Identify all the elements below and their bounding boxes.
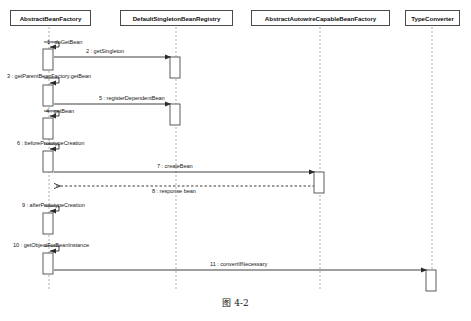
activation-bar-abf-7 bbox=[43, 213, 53, 234]
messages-layer bbox=[44, 42, 427, 270]
message-label-8: 8 : response bean bbox=[152, 188, 196, 195]
participant-box-tc: TypeConverter bbox=[405, 10, 460, 26]
message-label-11: 11 : convertIfNecessary bbox=[210, 261, 267, 268]
message-label-3: 3 : getParentBeanFactory.getBean bbox=[7, 73, 91, 80]
figure-caption: 图 4-2 bbox=[0, 296, 471, 309]
activation-bar-abf-2 bbox=[43, 85, 53, 106]
activation-bar-abf-4 bbox=[43, 118, 53, 139]
activation-bar-abf-5 bbox=[43, 151, 53, 172]
activation-bar-dsbr-3 bbox=[170, 104, 180, 125]
message-label-5: 5 : registerDependentBean bbox=[99, 95, 165, 102]
sequence-diagram-canvas bbox=[0, 0, 471, 321]
message-label-9: 9 : afterPrototypeCreation bbox=[22, 202, 85, 209]
lifelines-layer bbox=[49, 27, 432, 290]
participant-box-aacbf: AbstractAutowireCapableBeanFactory bbox=[251, 10, 390, 26]
activation-bar-dsbr-1 bbox=[170, 57, 180, 78]
message-label-2: 2 : getSingleton bbox=[86, 48, 124, 55]
activation-bar-abf-8 bbox=[43, 253, 53, 274]
participant-box-abf: AbstractBeanFactory bbox=[10, 10, 91, 26]
message-label-1: 1 : doGetBean bbox=[47, 39, 82, 46]
participant-box-dsbr: DefaultSingletonBeanRegistry bbox=[120, 10, 233, 26]
activation-bar-abf-0 bbox=[43, 49, 53, 70]
message-label-7: 7 : createBean bbox=[157, 163, 193, 170]
activations-layer bbox=[43, 49, 436, 291]
message-label-10: 10 : getObjectForBeanInstance bbox=[13, 242, 89, 249]
message-label-4: 4 : getBean bbox=[46, 108, 74, 115]
sequence-diagram-page: AbstractBeanFactoryDefaultSingletonBeanR… bbox=[0, 0, 471, 321]
activation-bar-aacbf-6 bbox=[314, 172, 324, 193]
message-label-6: 6 : beforePrototypeCreation bbox=[17, 140, 84, 147]
activation-bar-tc-9 bbox=[426, 270, 436, 291]
